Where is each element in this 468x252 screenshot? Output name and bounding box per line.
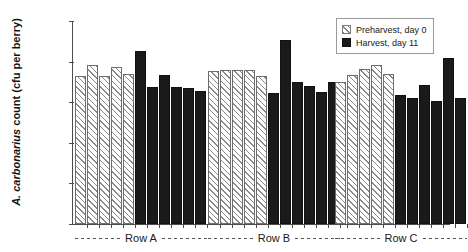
bar-harvest-row-c-8: [431, 101, 442, 224]
x-minor-tick: [316, 224, 317, 228]
y-tick-mark: [69, 62, 74, 63]
x-minor-tick: [87, 224, 88, 228]
x-minor-tick: [340, 224, 341, 228]
x-minor-tick: [183, 224, 184, 228]
bar-harvest-row-a-6: [147, 87, 158, 224]
group-label-text: Row C: [383, 232, 420, 244]
bar-preharvest-row-b-0: [208, 71, 219, 224]
bar-preharvest-row-a-2: [99, 76, 110, 224]
chart-legend: Preharvest, day 0 Harvest, day 11: [336, 18, 434, 54]
y-axis-title: A. carbonarius count (cfu per berry): [10, 4, 22, 220]
bar-preharvest-row-c-2: [359, 69, 370, 224]
x-minor-tick: [280, 224, 281, 228]
bar-harvest-row-b-5: [268, 93, 279, 224]
bar-harvest-row-b-7: [292, 82, 303, 224]
x-minor-tick: [99, 224, 100, 228]
bar-harvest-row-b-6: [280, 40, 291, 224]
x-minor-tick: [232, 224, 233, 228]
group-label-row-b: Row B: [208, 230, 340, 246]
y-tick-mark: [69, 224, 74, 225]
bar-preharvest-row-c-1: [347, 75, 358, 224]
y-tick-mark: [69, 21, 74, 22]
bar-preharvest-row-c-4: [383, 74, 394, 224]
x-minor-tick: [328, 224, 329, 228]
x-axis-line: [72, 224, 450, 225]
x-minor-tick: [207, 224, 208, 228]
bar-harvest-row-c-9: [443, 58, 454, 224]
x-minor-tick: [359, 224, 360, 228]
x-minor-tick: [123, 224, 124, 228]
x-minor-tick: [171, 224, 172, 228]
x-minor-tick: [455, 224, 456, 228]
bar-preharvest-row-c-0: [335, 82, 346, 224]
y-tick-mark: [69, 143, 74, 144]
x-minor-tick: [304, 224, 305, 228]
bar-harvest-row-a-8: [171, 87, 182, 224]
legend-swatch-hatched-icon: [342, 25, 351, 34]
x-minor-tick: [395, 224, 396, 228]
bar-harvest-row-a-5: [135, 51, 146, 224]
bar-harvest-row-b-8: [304, 86, 315, 224]
bar-preharvest-row-b-4: [256, 76, 267, 224]
x-minor-tick: [292, 224, 293, 228]
x-minor-tick: [268, 224, 269, 228]
group-label-row-c: Row C: [335, 230, 467, 246]
bar-preharvest-row-b-3: [244, 70, 255, 224]
legend-entry-harvest: Harvest, day 11: [342, 36, 427, 49]
x-minor-tick: [407, 224, 408, 228]
bar-harvest-row-c-7: [419, 85, 430, 224]
y-axis-title-italic: A. carbonarius: [10, 129, 22, 206]
y-tick-mark: [69, 102, 74, 103]
legend-entry-preharvest: Preharvest, day 0: [342, 23, 427, 36]
group-label-text: Row A: [123, 232, 159, 244]
group-label-dash-right: [162, 238, 207, 239]
y-tick-mark: [69, 183, 74, 184]
x-minor-tick: [383, 224, 384, 228]
x-minor-tick: [195, 224, 196, 228]
legend-swatch-solid-icon: [342, 38, 351, 47]
legend-label-harvest: Harvest, day 11: [356, 38, 418, 48]
x-minor-tick: [159, 224, 160, 228]
x-minor-tick: [419, 224, 420, 228]
x-minor-tick: [147, 224, 148, 228]
bar-preharvest-row-a-0: [75, 76, 86, 224]
bar-harvest-row-c-10: [455, 98, 466, 224]
x-minor-tick: [111, 224, 112, 228]
x-minor-tick: [431, 224, 432, 228]
bar-preharvest-row-b-2: [232, 70, 243, 224]
x-minor-tick: [371, 224, 372, 228]
group-label-text: Row B: [256, 232, 292, 244]
group-label-row-a: Row A: [75, 230, 207, 246]
group-label-dash-left: [75, 238, 120, 239]
x-minor-tick: [244, 224, 245, 228]
bar-preharvest-row-a-4: [123, 74, 134, 224]
x-minor-tick: [443, 224, 444, 228]
bar-preharvest-row-c-3: [371, 65, 382, 224]
group-label-dash-right: [423, 238, 468, 239]
bar-harvest-row-a-10: [195, 91, 206, 224]
bar-harvest-row-c-6: [407, 98, 418, 224]
bar-preharvest-row-b-1: [220, 70, 231, 224]
bar-harvest-row-a-7: [159, 75, 170, 224]
group-label-dash-left: [335, 238, 380, 239]
legend-label-preharvest: Preharvest, day 0: [356, 25, 427, 35]
x-minor-tick: [220, 224, 221, 228]
x-minor-tick: [135, 224, 136, 228]
x-minor-tick: [347, 224, 348, 228]
bar-preharvest-row-a-3: [111, 67, 122, 224]
group-label-dash-left: [208, 238, 253, 239]
bar-harvest-row-a-9: [183, 88, 194, 224]
bar-harvest-row-b-9: [316, 92, 327, 224]
bar-preharvest-row-a-1: [87, 65, 98, 224]
group-label-dash-right: [295, 238, 340, 239]
x-minor-tick: [256, 224, 257, 228]
y-axis-title-rest: count (cfu per berry): [10, 18, 22, 129]
bar-harvest-row-c-5: [395, 95, 406, 224]
